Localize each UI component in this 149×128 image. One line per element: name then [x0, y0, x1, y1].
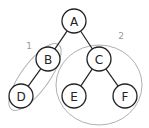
node-c: C: [87, 47, 111, 71]
groups-layer: 12: [0, 31, 142, 125]
edge-a-b: [55, 31, 67, 49]
nodes-layer: ABCDEF: [9, 9, 137, 108]
node-b: B: [36, 47, 60, 71]
node-c-label: C: [95, 53, 103, 67]
edge-c-e: [81, 69, 93, 86]
node-d: D: [9, 84, 33, 108]
node-a: A: [62, 9, 86, 33]
group-2-label: 2: [118, 31, 124, 41]
node-f-label: F: [122, 90, 129, 104]
tree-diagram: 12 ABCDEF: [0, 0, 149, 128]
group-1-label: 1: [26, 41, 32, 51]
edge-c-f: [106, 69, 118, 86]
edge-b-d: [28, 69, 41, 87]
node-d-label: D: [16, 90, 25, 104]
node-a-label: A: [70, 15, 79, 29]
node-b-label: B: [44, 53, 52, 67]
node-e: E: [62, 84, 86, 108]
node-f: F: [113, 84, 137, 108]
node-e-label: E: [70, 90, 78, 104]
